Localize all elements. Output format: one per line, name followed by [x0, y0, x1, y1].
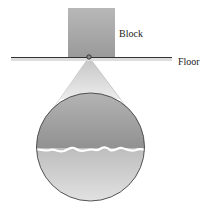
magnified-view: [30, 90, 155, 208]
floor-label: Floor: [178, 56, 200, 67]
block: [68, 8, 115, 57]
upper-surface: [30, 90, 155, 152]
block-label: Block: [119, 28, 143, 39]
friction-diagram: Block Floor: [0, 0, 208, 209]
floor-shadow: [11, 58, 172, 61]
contact-point-marker: [87, 55, 91, 59]
lower-surface: [30, 148, 155, 208]
